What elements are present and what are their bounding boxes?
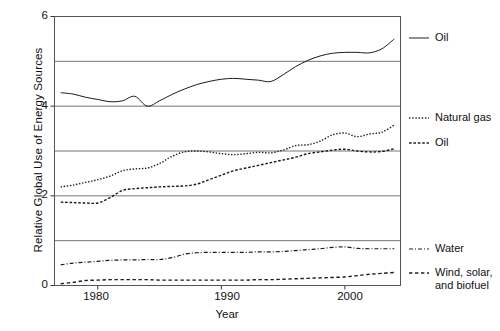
legend-label-2: Oil (430, 136, 448, 149)
series-line-4 (61, 273, 395, 284)
chart-figure: Relative Global Use of Energy Sources Ye… (0, 0, 500, 331)
legend-item-natural-gas[interactable]: Natural gas (408, 111, 500, 124)
legend-swatch-solid-icon (408, 32, 430, 44)
series-line-1 (61, 125, 395, 187)
legend-label-3: Water (430, 242, 464, 255)
legend-label-4: Wind, solar, and biofuel (430, 266, 492, 292)
legend-swatch-dotted-icon (408, 112, 430, 124)
gridlines (51, 17, 401, 290)
legend-label-1: Natural gas (430, 111, 491, 124)
legend-item-water[interactable]: Water (408, 242, 500, 255)
legend-item-wind-solar-biofuel[interactable]: Wind, solar, and biofuel (408, 266, 500, 292)
series-lines (61, 39, 395, 284)
legend-label-0: Oil (430, 31, 448, 44)
series-line-0 (61, 39, 395, 106)
legend: Oil Natural gas Oil Water Wind, solar, a (408, 0, 500, 331)
legend-swatch-shortdash-icon (408, 267, 430, 279)
legend-item-oil-solid[interactable]: Oil (408, 31, 500, 44)
legend-item-oil-dashed[interactable]: Oil (408, 136, 500, 149)
series-line-2 (61, 149, 395, 204)
series-line-3 (61, 247, 395, 265)
legend-swatch-dashdot-icon (408, 243, 430, 255)
legend-swatch-dashed-icon (408, 137, 430, 149)
